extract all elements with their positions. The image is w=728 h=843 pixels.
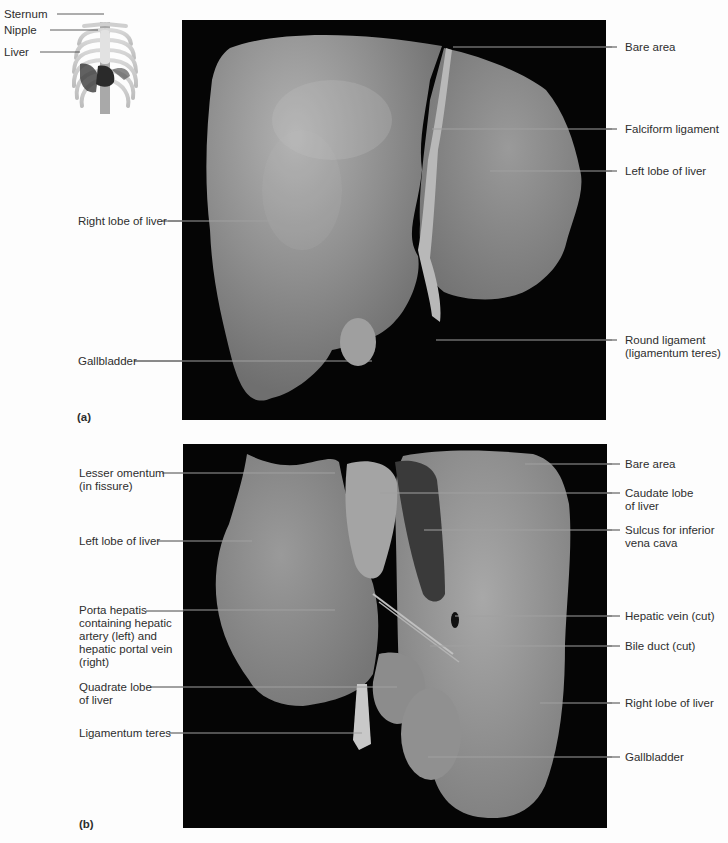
label-gallbladder-a: Gallbladder (78, 355, 137, 368)
label-right-lobe-a: Right lobe of liver (78, 215, 167, 228)
label-left-lobe-b: Left lobe of liver (79, 535, 160, 548)
label-ligamentum-teres-a: (ligamentum teres) (625, 347, 721, 360)
label-caudate-lobe: Caudate lobe of liver (625, 487, 693, 513)
label-line: artery (left) and (79, 630, 172, 643)
label-line: of liver (79, 694, 152, 707)
panel-tag-b: (b) (79, 818, 94, 830)
liver-posterior-photo (183, 444, 607, 828)
label-ligamentum-teres-b: Ligamentum teres (79, 727, 171, 740)
panel-tag-a: (a) (77, 411, 91, 423)
label-line: containing hepatic (79, 617, 172, 630)
label-line: Left lobe of liver (79, 535, 160, 548)
label-line: (right) (79, 656, 172, 669)
label-quadrate-lobe: Quadrate lobe of liver (79, 681, 152, 707)
label-line: of liver (625, 500, 693, 513)
label-line: Bile duct (cut) (625, 640, 695, 653)
photo-panel-b (183, 444, 607, 828)
liver-anterior-photo (182, 20, 606, 420)
label-right-lobe-b: Right lobe of liver (625, 697, 714, 710)
label-round-ligament: Round ligament (625, 334, 706, 347)
label-line: Quadrate lobe (79, 681, 152, 694)
label-hepatic-vein: Hepatic vein (cut) (625, 610, 714, 623)
label-sternum: Sternum (4, 8, 47, 21)
label-line: Porta hepatis (79, 604, 172, 617)
label-bile-duct: Bile duct (cut) (625, 640, 695, 653)
label-line: Lesser omentum (79, 467, 165, 480)
label-line: (in fissure) (79, 480, 165, 493)
label-sulcus-ivc: Sulcus for inferior vena cava (625, 524, 714, 550)
label-line: Sulcus for inferior (625, 524, 714, 537)
label-porta-hepatis: Porta hepatis containing hepatic artery … (79, 604, 172, 669)
label-line: hepatic portal vein (79, 643, 172, 656)
label-line: Right lobe of liver (625, 697, 714, 710)
label-nipple: Nipple (4, 24, 37, 37)
label-liver: Liver (4, 46, 29, 59)
thoracic-inset: Sternum Nipple Liver (0, 0, 180, 120)
label-bare-area-a: Bare area (625, 41, 676, 54)
label-lesser-omentum: Lesser omentum (in fissure) (79, 467, 165, 493)
label-gallbladder-b: Gallbladder (625, 751, 684, 764)
label-line: Bare area (625, 458, 676, 471)
label-line: Ligamentum teres (79, 727, 171, 740)
label-bare-area-b: Bare area (625, 458, 676, 471)
photo-panel-a (182, 20, 606, 420)
label-line: vena cava (625, 537, 714, 550)
label-line: Gallbladder (625, 751, 684, 764)
label-falciform-ligament: Falciform ligament (625, 123, 719, 136)
label-line: Caudate lobe (625, 487, 693, 500)
label-left-lobe-a: Left lobe of liver (625, 165, 706, 178)
label-line: Hepatic vein (cut) (625, 610, 714, 623)
